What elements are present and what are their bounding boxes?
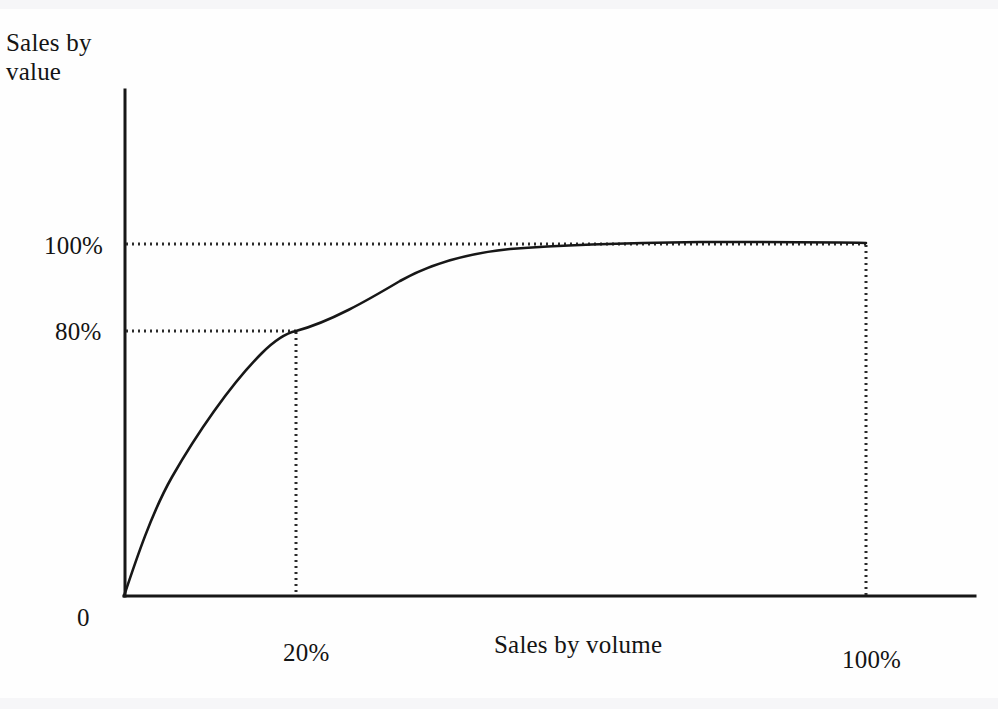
x-axis-title: Sales by volume bbox=[494, 630, 662, 659]
x-axis-tick-label-20: 20% bbox=[283, 638, 329, 667]
y-axis-title: Sales by value bbox=[6, 28, 136, 86]
x-axis-tick-label-100: 100% bbox=[842, 645, 901, 674]
y-axis-tick-label-100: 100% bbox=[44, 231, 103, 260]
y-axis-tick-label-80: 80% bbox=[55, 317, 101, 346]
origin-label: 0 bbox=[77, 603, 90, 632]
pareto-curve bbox=[124, 242, 866, 596]
chart-page: Sales by value 100% 80% 0 20% Sales by v… bbox=[0, 0, 998, 709]
pareto-curve-figure bbox=[0, 0, 998, 709]
